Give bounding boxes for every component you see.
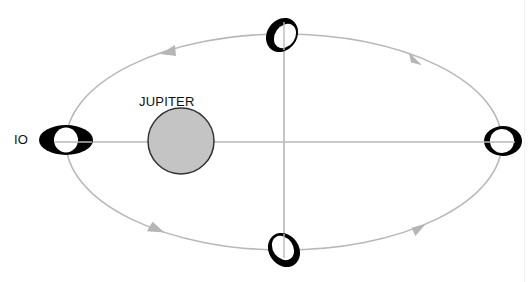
io-orbit-diagram [0, 0, 529, 282]
orbit-arrow-icon [160, 45, 176, 56]
orbit-arrow-icon [411, 224, 428, 237]
io-label: IO [14, 132, 28, 147]
page-edge [524, 0, 525, 282]
jupiter-label: JUPITER [139, 94, 195, 109]
jupiter-planet [148, 108, 214, 174]
orbit-arrow-icon [406, 52, 424, 66]
orbit-arrow-icon [147, 221, 167, 237]
io-moon-left [39, 125, 93, 155]
io-moon-right [478, 126, 522, 156]
